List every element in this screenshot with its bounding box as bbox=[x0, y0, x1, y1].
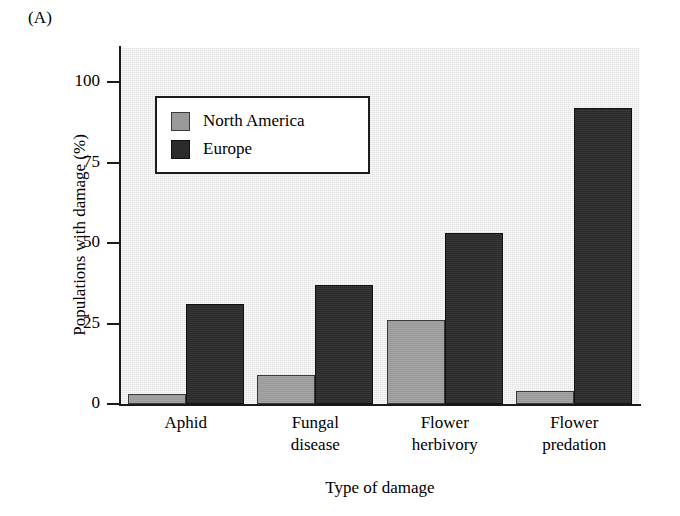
legend-label: Europe bbox=[203, 139, 252, 159]
bar-europe-fungal-disease bbox=[315, 285, 373, 404]
bar-north-america-flower-predation bbox=[516, 391, 574, 404]
x-category-label-flower-predation: Flowerpredation bbox=[510, 412, 640, 456]
x-category-label-line: Flower bbox=[510, 412, 640, 434]
y-tick-mark bbox=[107, 162, 120, 164]
x-category-label-fungal-disease: Fungaldisease bbox=[251, 412, 381, 456]
bar-europe-flower-herbivory bbox=[445, 233, 503, 404]
y-tick-mark bbox=[107, 403, 120, 405]
legend-row-north-america[interactable]: North America bbox=[171, 107, 356, 135]
legend-label: North America bbox=[203, 111, 305, 131]
y-tick-label: 75 bbox=[0, 153, 100, 170]
y-tick-mark bbox=[107, 323, 120, 325]
bar-europe-flower-predation bbox=[574, 108, 632, 404]
y-tick-mark bbox=[107, 81, 120, 83]
bar-europe-aphid bbox=[186, 304, 244, 404]
x-axis-line bbox=[119, 404, 641, 406]
y-tick-mark bbox=[107, 242, 120, 244]
panel-label: (A) bbox=[28, 8, 52, 28]
y-tick-label: 100 bbox=[0, 72, 100, 89]
y-tick-label: 50 bbox=[0, 233, 100, 250]
y-tick-label: 0 bbox=[0, 394, 100, 411]
y-tick-label: 25 bbox=[0, 314, 100, 331]
europe-swatch bbox=[171, 140, 190, 159]
bar-north-america-aphid bbox=[128, 394, 186, 404]
figure-panel-a: (A) Populations with damage (%) 02550751… bbox=[0, 0, 680, 516]
legend-row-europe[interactable]: Europe bbox=[171, 135, 356, 163]
x-category-label-line: disease bbox=[251, 434, 381, 456]
north-america-swatch bbox=[171, 112, 190, 131]
x-category-label-line: Aphid bbox=[121, 412, 251, 434]
x-category-label-line: predation bbox=[510, 434, 640, 456]
x-axis-title: Type of damage bbox=[121, 478, 639, 498]
legend: North AmericaEurope bbox=[155, 96, 370, 174]
x-category-label-aphid: Aphid bbox=[121, 412, 251, 434]
y-axis-line bbox=[119, 46, 121, 406]
bar-north-america-fungal-disease bbox=[257, 375, 315, 404]
x-category-label-line: Flower bbox=[380, 412, 510, 434]
x-category-label-line: Fungal bbox=[251, 412, 381, 434]
bar-north-america-flower-herbivory bbox=[387, 320, 445, 404]
x-category-label-line: herbivory bbox=[380, 434, 510, 456]
x-category-label-flower-herbivory: Flowerherbivory bbox=[380, 412, 510, 456]
